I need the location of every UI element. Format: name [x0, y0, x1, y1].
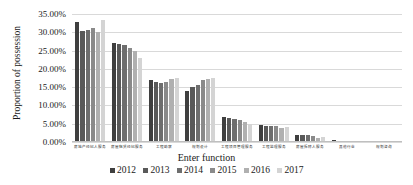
bar — [128, 48, 132, 142]
x-tick-label: 工程监理服务 — [255, 145, 292, 149]
legend-swatch-icon — [277, 168, 282, 173]
bar-group: 规划咨询 — [365, 14, 402, 142]
bar — [138, 58, 142, 142]
legend-item[interactable]: 2014 — [177, 165, 204, 175]
legend-item[interactable]: 2013 — [143, 165, 170, 175]
bar — [169, 79, 173, 142]
y-tick-label: 5.00% — [43, 119, 66, 129]
bar — [175, 78, 179, 142]
bar — [285, 127, 289, 142]
bar-group: 房屋租赁经纪服务 — [109, 14, 146, 142]
legend-swatch-icon — [177, 168, 182, 173]
legend-label: 2013 — [151, 165, 170, 175]
bar — [269, 126, 273, 142]
bar — [86, 30, 90, 142]
bar — [91, 28, 95, 142]
bar-group: 规划设计 — [182, 14, 219, 142]
x-tick-label: 规划咨询 — [365, 145, 402, 149]
legend-swatch-icon — [143, 168, 148, 173]
bar-group: 工程勘察 — [145, 14, 182, 142]
bar — [101, 20, 105, 142]
bar — [211, 78, 215, 142]
gridline — [72, 142, 402, 143]
legend-label: 2017 — [285, 165, 304, 175]
bar — [149, 80, 153, 142]
bar — [279, 128, 283, 142]
y-tick-label: 30.00% — [38, 27, 66, 37]
x-tick-label: 房地产经纪人服务 — [72, 145, 109, 149]
legend-item[interactable]: 2017 — [277, 165, 304, 175]
legend-swatch-icon — [244, 168, 249, 173]
bar — [243, 122, 247, 142]
bar — [80, 31, 84, 142]
bar — [122, 45, 126, 142]
legend-item[interactable]: 2015 — [210, 165, 237, 175]
y-tick-label: 25.00% — [38, 46, 66, 56]
bar — [117, 44, 121, 142]
bar — [164, 82, 168, 142]
x-axis-line — [72, 141, 402, 142]
bar — [264, 126, 268, 142]
bar — [248, 124, 252, 142]
bar — [222, 117, 226, 142]
x-tick-label: 规划设计 — [182, 145, 219, 149]
legend-label: 2015 — [218, 165, 237, 175]
x-tick-label: 房屋拆除人服务 — [292, 145, 329, 149]
bar — [75, 22, 79, 142]
legend-label: 2014 — [184, 165, 203, 175]
bar — [190, 87, 194, 142]
bar — [159, 83, 163, 142]
bar — [96, 32, 100, 142]
bar — [185, 91, 189, 142]
bar — [232, 119, 236, 142]
plot-area: 房地产经纪人服务房屋租赁经纪服务工程勘察规划设计工程项目管理服务工程监理服务房屋… — [72, 14, 402, 142]
y-axis-tick-labels: 35.00%30.00%25.00%20.00%15.00%10.00%5.00… — [26, 14, 70, 142]
bar-group: 房屋拆除人服务 — [292, 14, 329, 142]
bar-group: 工程项目管理服务 — [219, 14, 256, 142]
y-axis-title: Proportion of possession — [12, 8, 22, 138]
bar — [274, 126, 278, 142]
bar-groups: 房地产经纪人服务房屋租赁经纪服务工程勘察规划设计工程项目管理服务工程监理服务房屋… — [72, 14, 402, 142]
bar — [206, 79, 210, 142]
x-tick-label: 工程项目管理服务 — [219, 145, 256, 149]
legend-item[interactable]: 2012 — [110, 165, 137, 175]
legend-item[interactable]: 2016 — [244, 165, 271, 175]
x-axis-title: Enter function — [0, 152, 413, 163]
bar — [133, 51, 137, 142]
bar — [201, 80, 205, 142]
legend-label: 2012 — [117, 165, 136, 175]
bar — [154, 82, 158, 142]
y-tick-label: 20.00% — [38, 64, 66, 74]
bar-group: 其他行业 — [329, 14, 366, 142]
y-tick-label: 10.00% — [38, 100, 66, 110]
x-tick-label: 房屋租赁经纪服务 — [109, 145, 146, 149]
bar-group: 工程监理服务 — [255, 14, 292, 142]
bar — [238, 120, 242, 142]
x-tick-label: 工程勘察 — [145, 145, 182, 149]
legend-swatch-icon — [110, 168, 115, 173]
y-tick-label: 15.00% — [38, 82, 66, 92]
bar — [259, 125, 263, 142]
x-tick-label: 其他行业 — [329, 145, 366, 149]
bar-group: 房地产经纪人服务 — [72, 14, 109, 142]
bar — [196, 85, 200, 142]
bar-chart: Proportion of possession 35.00%30.00%25.… — [0, 0, 413, 185]
legend-label: 2016 — [251, 165, 270, 175]
y-tick-label: 0.00% — [43, 137, 66, 147]
y-tick-label: 35.00% — [38, 9, 66, 19]
legend-swatch-icon — [210, 168, 215, 173]
bar — [112, 43, 116, 142]
legend: 201220132014201520162017 — [0, 165, 413, 175]
bar — [227, 118, 231, 142]
